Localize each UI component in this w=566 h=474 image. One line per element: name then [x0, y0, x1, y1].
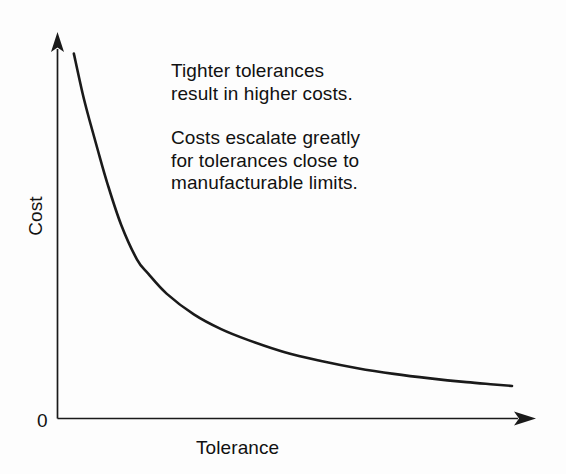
cost-tolerance-figure: Tighter tolerances result in higher cost…	[0, 0, 566, 474]
x-axis-label: Tolerance	[196, 437, 279, 459]
annotation-tighter-tolerances: Tighter tolerances result in higher cost…	[171, 60, 353, 105]
annotation-costs-escalate: Costs escalate greatly for tolerances cl…	[171, 127, 360, 195]
origin-label: 0	[37, 410, 48, 432]
y-axis-label: Cost	[25, 193, 47, 239]
